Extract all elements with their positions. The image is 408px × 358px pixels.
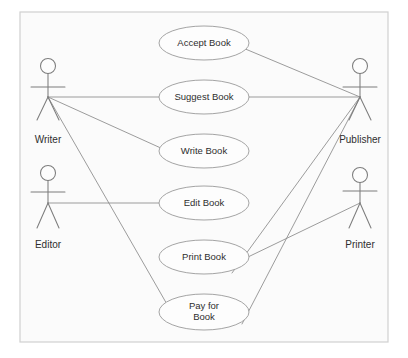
uml-diagram-svg: Accept BookSuggest BookWrite BookEdit Bo… — [0, 0, 408, 358]
use-case-label-pay-for-book: Book — [193, 311, 215, 322]
use-case-label-pay-for-book: Pay for — [189, 300, 219, 311]
use-case-label-suggest-book: Suggest Book — [174, 91, 233, 102]
use-case-label-print-book: Print Book — [182, 251, 226, 262]
use-case-label-write-book: Write Book — [181, 145, 228, 156]
actor-head-icon-publisher — [353, 59, 368, 74]
use-case-suggest-book[interactable]: Suggest Book — [159, 80, 249, 114]
use-case-print-book[interactable]: Print Book — [159, 240, 249, 274]
use-case-write-book[interactable]: Write Book — [159, 134, 249, 168]
actor-label-writer: Writer — [35, 134, 62, 145]
diagram-frame — [20, 12, 388, 342]
use-case-diagram-canvas: Accept BookSuggest BookWrite BookEdit Bo… — [0, 0, 408, 358]
use-case-accept-book[interactable]: Accept Book — [159, 26, 249, 60]
use-case-pay-for-book[interactable]: Pay forBook — [159, 294, 249, 330]
actor-label-printer: Printer — [345, 239, 375, 250]
actor-head-icon-writer — [41, 59, 56, 74]
actor-head-icon-printer — [353, 168, 368, 183]
actor-label-editor: Editor — [35, 239, 62, 250]
actor-head-icon-editor — [41, 166, 56, 181]
use-case-edit-book[interactable]: Edit Book — [159, 186, 249, 220]
use-case-label-accept-book: Accept Book — [177, 37, 231, 48]
actor-label-publisher: Publisher — [339, 134, 381, 145]
use-case-label-edit-book: Edit Book — [184, 197, 225, 208]
